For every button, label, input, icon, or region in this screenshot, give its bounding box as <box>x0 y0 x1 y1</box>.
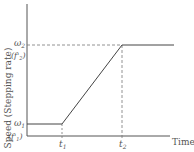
w1-label: ω1 <box>14 118 25 129</box>
t1-label: t1 <box>59 139 66 150</box>
y-axis-title: Speed (Stepping rate) <box>3 48 13 149</box>
speed-profile-line <box>27 45 174 124</box>
f2-label: (f'2) <box>11 51 26 61</box>
t2-label: t2 <box>119 139 127 150</box>
x-axis-title: Time <box>172 137 194 147</box>
w2-label: ω2 <box>14 38 25 49</box>
speed-time-chart: ω2 (f'2) ω1 (f'1) t1 t2 Time Speed (Step… <box>0 0 194 152</box>
